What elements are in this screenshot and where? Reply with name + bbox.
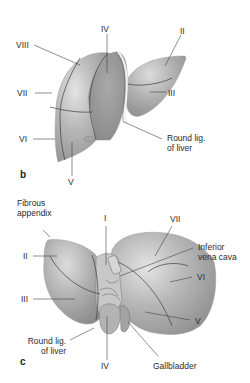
label-fibrous-appendix: Fibrous appendix <box>17 198 52 218</box>
liver-visceral-view <box>44 232 216 334</box>
label-segment-v-c: V <box>195 316 201 326</box>
left-lobe-shape <box>126 56 186 116</box>
label-segment-iii-b: III <box>168 88 175 98</box>
label-round-ligament-b: Round lig. of liver <box>167 133 205 153</box>
label-segment-iii-c: III <box>21 294 28 304</box>
label-segment-iv-b: IV <box>101 24 109 34</box>
label-gallbladder: Gallbladder <box>153 361 196 371</box>
label-segment-viii-b: VIII <box>16 40 29 50</box>
label-segment-iv-c: IV <box>101 361 109 371</box>
label-segment-ii-b: II <box>180 26 185 36</box>
liver-anterior-view <box>50 52 186 162</box>
panel-letter-b: b <box>20 169 26 180</box>
label-segment-v-b: V <box>68 177 74 187</box>
label-segment-vii-c: VII <box>170 214 180 224</box>
label-segment-vi-c: VI <box>197 272 205 282</box>
label-inferior-vena-cava: Inferior vena cava <box>198 242 237 262</box>
label-segment-vi-b: VI <box>19 134 27 144</box>
label-segment-i-c: I <box>104 213 106 223</box>
liver-illustrations <box>0 0 250 383</box>
label-segment-ii-c: II <box>23 251 28 261</box>
label-segment-vii-b: VII <box>17 88 27 98</box>
label-round-ligament-c: Round lig. of liver <box>20 336 66 356</box>
panel-letter-c: c <box>20 356 26 367</box>
